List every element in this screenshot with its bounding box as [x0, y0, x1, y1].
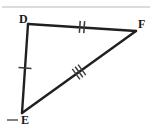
vertex-label-e: E [21, 114, 29, 126]
tick-mark-triple-EF [72, 65, 85, 80]
vertex-label-d: D [19, 13, 28, 25]
vertex-label-f: F [138, 18, 145, 30]
segment-DF [28, 24, 136, 31]
geometry-figure: D F E [0, 0, 151, 131]
tick-mark-single-DE [19, 68, 32, 69]
